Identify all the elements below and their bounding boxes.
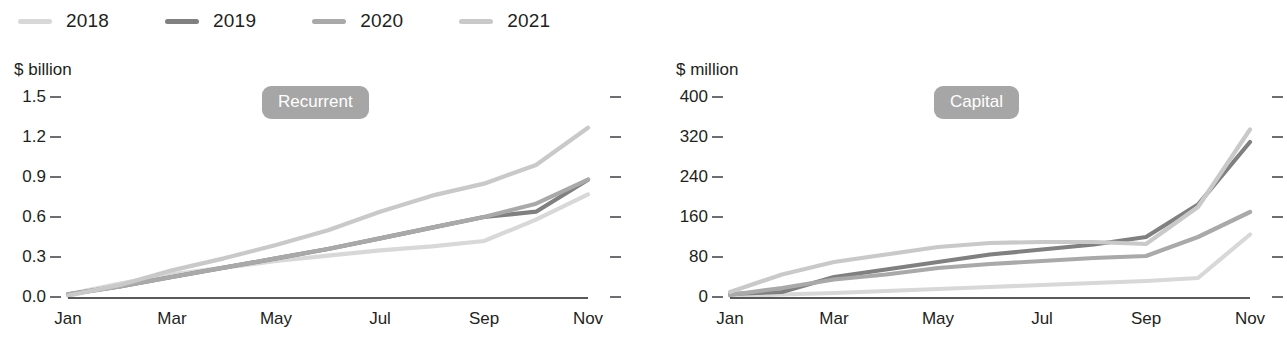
legend-item-2019[interactable]: 2019 (165, 10, 256, 32)
y-axis-tick-mark-mirrored (610, 176, 621, 178)
y-axis-tick-mark-mirrored (1272, 216, 1283, 218)
y-axis-tick-mark-mirrored (1272, 96, 1283, 98)
y-axis-tick-mark (712, 176, 723, 178)
x-axis-line (68, 297, 588, 299)
y-axis-tick-mark (712, 216, 723, 218)
x-axis-tick-label: Mar (157, 309, 186, 329)
x-axis-tick-label: Jul (369, 309, 391, 329)
y-axis-tick-mark-mirrored (1272, 176, 1283, 178)
y-axis-tick-mark-mirrored (1272, 256, 1283, 258)
y-axis-tick-mark-mirrored (1272, 296, 1283, 298)
legend-label: 2018 (66, 10, 109, 32)
y-axis-tick-label: 80 (689, 247, 708, 267)
x-axis-tick-label: Jan (54, 309, 81, 329)
y-axis-tick-mark (712, 256, 723, 258)
y-axis-tick-label: 0.3 (22, 247, 46, 267)
y-axis-tick-label: 0.9 (22, 167, 46, 187)
x-axis-tick-label: May (260, 309, 292, 329)
legend-swatch-icon (459, 19, 493, 24)
x-axis-tick-label: Jan (716, 309, 743, 329)
x-axis-tick-label: Sep (469, 309, 499, 329)
y-axis-tick-label: 0.0 (22, 287, 46, 307)
y-axis-tick-label: 1.5 (22, 87, 46, 107)
y-axis-tick-label: 160 (680, 207, 708, 227)
legend-label: 2020 (360, 10, 403, 32)
y-axis-tick-mark-mirrored (1272, 136, 1283, 138)
x-axis-tick-label: Sep (1131, 309, 1161, 329)
y-axis-tick-mark (50, 136, 61, 138)
x-axis-tick-label: Mar (819, 309, 848, 329)
series-line-2021 (730, 130, 1250, 293)
y-axis-tick-label: 400 (680, 87, 708, 107)
y-axis-tick-mark (50, 216, 61, 218)
legend-swatch-icon (312, 19, 346, 24)
legend-swatch-icon (165, 19, 199, 24)
chart-legend: 2018201920202021 (18, 8, 606, 34)
series-canvas (730, 97, 1250, 297)
y-axis-tick-mark-mirrored (610, 256, 621, 258)
y-axis-unit-label: $ billion (14, 60, 72, 80)
y-axis-tick-label: 240 (680, 167, 708, 187)
y-axis-tick-label: 0.6 (22, 207, 46, 227)
x-axis-tick-label: Jul (1031, 309, 1053, 329)
chart-panel-capital: $ million Capital 080160240320400JanMarM… (662, 52, 1287, 352)
y-axis-tick-label: 320 (680, 127, 708, 147)
x-axis-line (730, 297, 1250, 299)
legend-item-2018[interactable]: 2018 (18, 10, 109, 32)
y-axis-tick-mark (712, 96, 723, 98)
y-axis-tick-mark (50, 256, 61, 258)
y-axis-tick-mark-mirrored (610, 136, 621, 138)
series-canvas (68, 97, 588, 297)
y-axis-unit-label: $ million (676, 60, 738, 80)
y-axis-tick-mark-mirrored (610, 216, 621, 218)
y-axis-tick-mark-mirrored (610, 296, 621, 298)
plot-area-capital: 080160240320400JanMarMayJulSepNov (730, 97, 1250, 297)
y-axis-tick-mark-mirrored (610, 96, 621, 98)
y-axis-tick-mark (50, 296, 61, 298)
y-axis-tick-label: 0 (699, 287, 708, 307)
plot-area-recurrent: 0.00.30.60.91.21.5JanMarMayJulSepNov (68, 97, 588, 297)
legend-label: 2019 (213, 10, 256, 32)
legend-swatch-icon (18, 19, 52, 24)
x-axis-tick-label: May (922, 309, 954, 329)
x-axis-tick-label: Nov (1235, 309, 1265, 329)
y-axis-tick-label: 1.2 (22, 127, 46, 147)
y-axis-tick-mark (712, 296, 723, 298)
y-axis-tick-mark (50, 176, 61, 178)
legend-item-2020[interactable]: 2020 (312, 10, 403, 32)
legend-item-2021[interactable]: 2021 (459, 10, 550, 32)
legend-label: 2021 (507, 10, 550, 32)
series-line-2019 (730, 142, 1250, 294)
y-axis-tick-mark (50, 96, 61, 98)
chart-panel-recurrent: $ billion Recurrent 0.00.30.60.91.21.5Ja… (0, 52, 630, 352)
x-axis-tick-label: Nov (573, 309, 603, 329)
y-axis-tick-mark (712, 136, 723, 138)
